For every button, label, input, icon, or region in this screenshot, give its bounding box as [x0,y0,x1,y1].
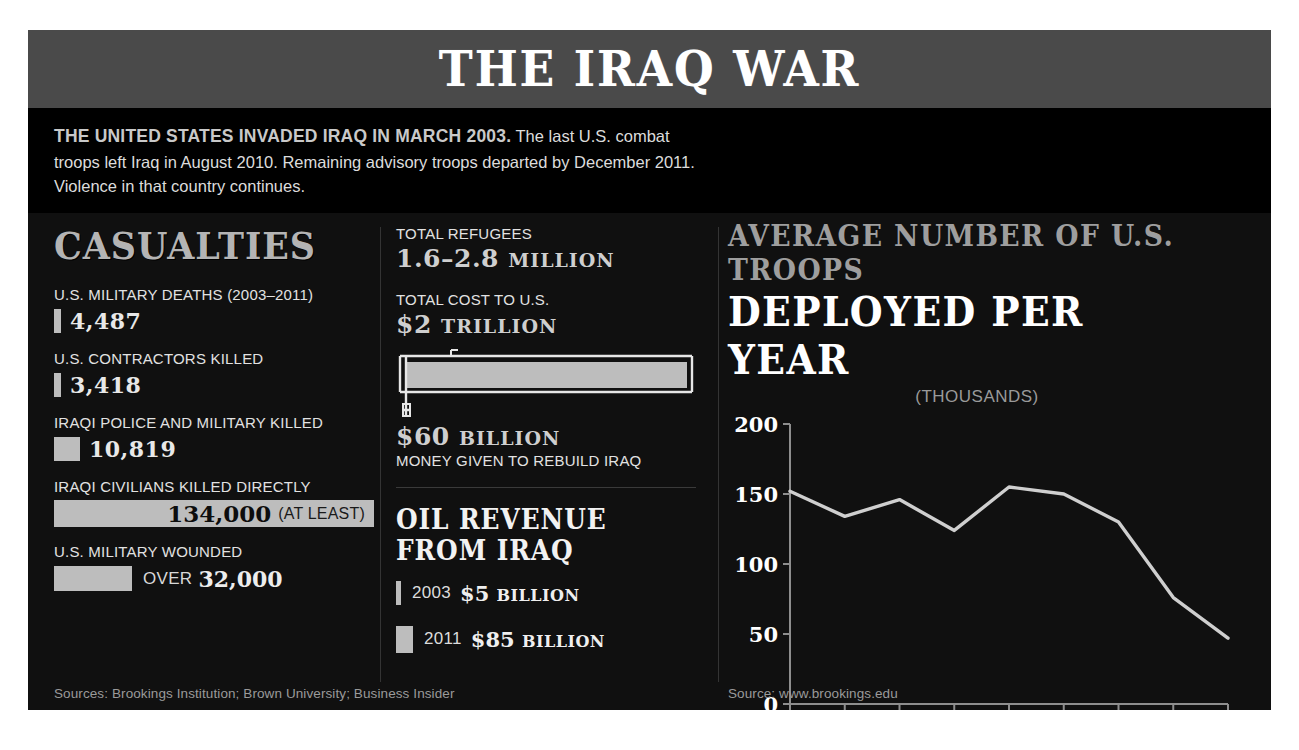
stat-value: 4,487 [70,308,141,334]
oil-amount: $5 BILLION [460,581,580,606]
stat-label: IRAQI CIVILIANS KILLED DIRECTLY [54,478,374,495]
value-bar [54,373,61,397]
stat-label: U.S. CONTRACTORS KILLED [54,350,374,367]
oil-bar [396,581,401,605]
sources-left: Sources: Brookings Institution; Brown Un… [54,686,455,701]
oil-row: 2011 $85 BILLION [396,626,706,652]
body-area: CASUALTIES U.S. MILITARY DEATHS (2003–20… [28,213,1271,710]
cost-unit: TRILLION [441,315,557,337]
oil-amount-value: $85 [471,627,515,652]
page-title: THE IRAQ WAR [439,40,860,98]
intro-text: THE UNITED STATES INVADED IRAQ IN MARCH … [54,124,714,198]
cost-comparison-graphic [396,348,696,420]
chart-column: AVERAGE NUMBER OF U.S. TROOPS DEPLOYED P… [728,213,1248,710]
intro-strip: THE UNITED STATES INVADED IRAQ IN MARCH … [28,108,1271,213]
rebuild-value: $60 [396,422,450,451]
value-bar [54,437,80,461]
rebuild-value-row: $60 BILLION [396,422,706,451]
casualties-title: CASUALTIES [54,223,348,268]
sources-right: Source: www.brookings.edu [728,686,898,701]
stat-row: 4,487 [54,308,374,334]
rebuild-unit: BILLION [459,427,560,449]
stat-row: OVER 32,000 [54,565,374,592]
chart-series-line [790,487,1228,638]
rebuild-label: MONEY GIVEN TO REBUILD IRAQ [396,452,706,469]
stat-value: 134,000 [167,500,271,527]
y-tick-label: 150 [728,482,778,507]
cost-block: TOTAL COST TO U.S. $2 TRILLION [396,291,706,469]
stat-item: IRAQI POLICE AND MILITARY KILLED 10,819 [54,414,374,462]
chart-subtitle: (THOUSANDS) [728,387,1226,407]
y-tick-label: 200 [728,412,778,437]
stat-value: 3,418 [70,372,141,398]
chart-title-line1: AVERAGE NUMBER OF U.S. TROOPS [728,219,1206,287]
casualties-column: CASUALTIES U.S. MILITARY DEATHS (2003–20… [54,213,374,608]
oil-amount-value: $5 [460,581,489,606]
chart-axes [783,424,1228,710]
value-bar [54,309,61,333]
line-chart: 050100150200 200320042005200620072008200… [728,412,1240,710]
stat-item: U.S. MILITARY WOUNDED OVER 32,000 [54,543,374,592]
divider-left [380,227,381,682]
value-bar-wide: 134,000 (AT LEAST) [54,500,374,527]
y-tick-label: 100 [728,552,778,577]
cost-label: TOTAL COST TO U.S. [396,291,706,308]
stat-value: 10,819 [89,436,176,462]
refugees-value-row: 1.6–2.8 MILLION [396,244,706,273]
chart-svg [728,412,1240,710]
divider-right [718,227,719,682]
cost-value-row: $2 TRILLION [396,310,706,339]
stat-label: U.S. MILITARY WOUNDED [54,543,374,560]
stat-note: OVER [143,569,192,589]
value-bar [54,566,132,591]
refugees-block: TOTAL REFUGEES 1.6–2.8 MILLION [396,225,706,273]
oil-year: 2011 [424,629,462,649]
refugees-label: TOTAL REFUGEES [396,225,706,242]
header-band: THE IRAQ WAR [28,30,1271,108]
infographic-poster: THE IRAQ WAR THE UNITED STATES INVADED I… [28,30,1271,710]
stat-row: 3,418 [54,372,374,398]
oil-amount: $85 BILLION [471,627,605,652]
oil-year: 2003 [412,583,451,603]
intro-lead: THE UNITED STATES INVADED IRAQ IN MARCH … [54,126,511,146]
oil-row: 2003 $5 BILLION [396,580,706,606]
stat-row: 10,819 [54,436,374,462]
oil-amount-unit: BILLION [522,632,605,651]
cost-bracket-svg [396,348,696,420]
chart-title-line2: DEPLOYED PER YEAR [728,288,1206,384]
stat-value: 32,000 [198,566,282,592]
oil-revenue-title: OIL REVENUE FROM IRAQ [396,504,681,566]
stat-label: U.S. MILITARY DEATHS (2003–2011) [54,286,374,303]
figures-column: TOTAL REFUGEES 1.6–2.8 MILLION TOTAL COS… [396,213,706,672]
stat-label: IRAQI POLICE AND MILITARY KILLED [54,414,374,431]
stat-item: U.S. CONTRACTORS KILLED 3,418 [54,350,374,398]
stat-item: IRAQI CIVILIANS KILLED DIRECTLY 134,000 … [54,478,374,527]
refugees-unit: MILLION [508,249,614,271]
oil-amount-unit: BILLION [497,586,580,605]
stat-note: (AT LEAST) [278,505,365,523]
section-divider [396,487,696,488]
refugees-value: 1.6–2.8 [396,244,499,273]
oil-bar [396,626,413,653]
y-tick-label: 50 [728,622,778,647]
cost-value: $2 [396,310,432,339]
stat-item: U.S. MILITARY DEATHS (2003–2011) 4,487 [54,286,374,334]
